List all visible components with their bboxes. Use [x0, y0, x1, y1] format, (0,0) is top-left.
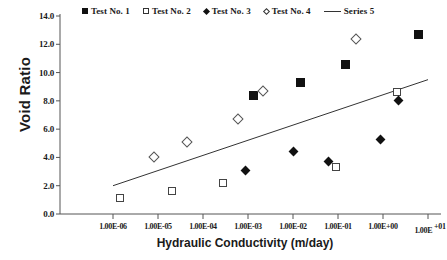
data-point	[249, 91, 258, 100]
data-point	[288, 147, 298, 157]
chart-container: Test No. 1Test No. 2Test No. 3Test No. 4…	[0, 0, 447, 260]
data-point	[232, 114, 243, 125]
data-point	[376, 134, 386, 144]
y-axis-tick-text: 10.0	[14, 68, 54, 78]
y-axis-tick-label: 2.0	[10, 181, 54, 191]
data-point	[350, 33, 361, 44]
data-point	[219, 179, 227, 187]
y-axis-tick-text: 14.0	[14, 11, 54, 21]
x-axis-tick-label: 1.00E +01	[398, 222, 447, 235]
y-axis-tick-label: 10.0	[10, 68, 54, 78]
data-point	[393, 96, 403, 106]
data-point	[241, 165, 251, 175]
data-point	[296, 78, 305, 87]
y-axis-tick-label: 6.0	[10, 124, 54, 134]
y-axis-tick-text: 6.0	[14, 124, 54, 134]
plot-area: 0.02.04.06.08.010.012.014.01.00E-061.00E…	[0, 0, 447, 260]
y-axis-tick-text: 2.0	[14, 181, 54, 191]
data-point	[332, 163, 340, 171]
y-axis-tick-label: 8.0	[10, 96, 54, 106]
data-point	[116, 194, 124, 202]
y-axis-tick-text: 12.0	[14, 39, 54, 49]
y-axis-tick-text: 0.0	[14, 209, 54, 219]
data-point	[258, 85, 269, 96]
data-point	[148, 152, 159, 163]
y-axis-tick-text: 4.0	[14, 152, 54, 162]
data-point	[168, 187, 176, 195]
data-point	[341, 60, 350, 69]
data-point	[393, 88, 401, 96]
y-axis-tick-label: 14.0	[10, 11, 54, 21]
y-axis-tick-label: 4.0	[10, 152, 54, 162]
y-axis-tick-text: 8.0	[14, 96, 54, 106]
y-axis-tick-label: 0.0	[10, 209, 54, 219]
data-point	[182, 136, 193, 147]
data-point	[414, 30, 423, 39]
y-axis-tick-label: 12.0	[10, 39, 54, 49]
